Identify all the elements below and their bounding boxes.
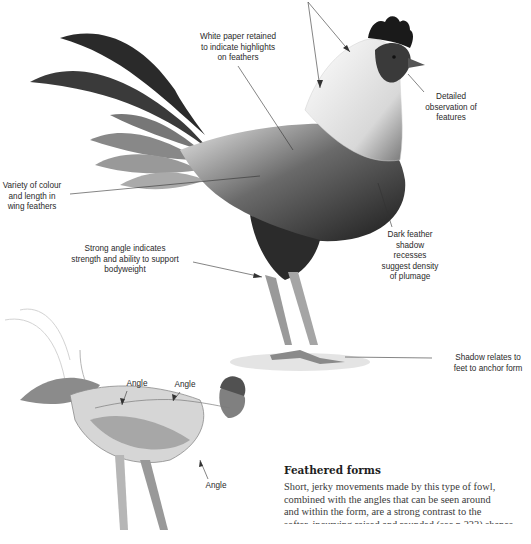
annotation-angle-3: Angle — [201, 481, 231, 492]
annotation-dark-feather: Dark feather shadow recesses suggest den… — [370, 230, 450, 283]
annotation-angle-1: Angle — [122, 379, 152, 390]
annotation-shadow-relates: Shadow relates to feet to anchor form — [440, 353, 531, 374]
annotation-strong-angle: Strong angle indicates strength and abil… — [60, 244, 190, 276]
annotation-white-paper: White paper retained to indicate highlig… — [186, 32, 290, 64]
main-rooster-drawing — [30, 16, 425, 371]
sketch-rooster-drawing — [5, 309, 245, 530]
section-body: Short, jerky movements made by this type… — [284, 481, 531, 524]
section-heading: Feathered forms — [284, 464, 381, 476]
annotation-angle-2: Angle — [170, 380, 200, 391]
body-line: softer, incurving raised and rounded (se… — [284, 519, 531, 524]
annotation-detailed-observation: Detailed observation of features — [410, 92, 492, 124]
body-line: combined with the angles that can be see… — [284, 494, 531, 507]
annotation-variety-colour: Variety of colour and length in wing fea… — [0, 181, 70, 213]
body-line: Short, jerky movements made by this type… — [284, 481, 531, 494]
body-line: and within the form, are a strong contra… — [284, 506, 531, 519]
